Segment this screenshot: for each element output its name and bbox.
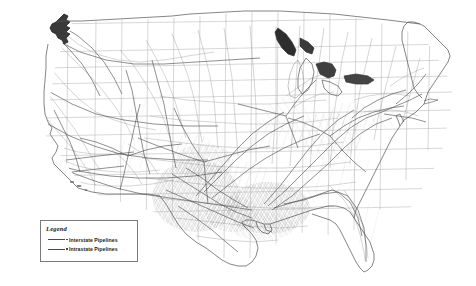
legend-title: Legend (46, 225, 137, 233)
legend-item-intrastate: Intrastate Pipelines (46, 246, 137, 252)
legend-item-interstate-label: Interstate Pipelines (69, 237, 118, 243)
interstate-line-swatch-icon (48, 237, 68, 242)
map-legend: Legend Interstate Pipelines Intrastate P… (40, 220, 138, 262)
legend-item-intrastate-label: Intrastate Pipelines (69, 246, 118, 252)
pipeline-map: Legend Interstate Pipelines Intrastate P… (0, 0, 476, 286)
intrastate-line-swatch-icon (48, 247, 68, 252)
legend-item-interstate: Interstate Pipelines (46, 237, 137, 243)
